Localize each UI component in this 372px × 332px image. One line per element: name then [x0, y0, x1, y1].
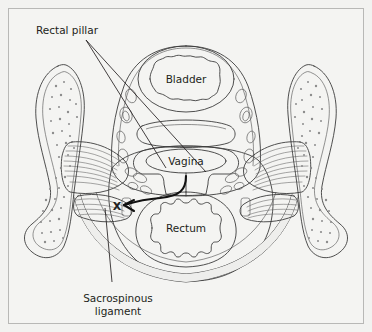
anatomy-figure: Bladder	[0, 0, 372, 332]
ligament-cross-marker: X	[113, 200, 122, 213]
label-rectum: Rectum	[166, 222, 206, 234]
label-vagina: Vagina	[168, 155, 203, 167]
label-rectal-pillar: Rectal pillar	[36, 24, 99, 36]
label-sacrospinous-ligament-line2: ligament	[95, 305, 141, 317]
anatomy-diagram-svg: Bladder	[0, 0, 372, 332]
label-sacrospinous-ligament-line1: Sacrospinous	[83, 292, 153, 304]
label-bladder: Bladder	[166, 73, 207, 85]
